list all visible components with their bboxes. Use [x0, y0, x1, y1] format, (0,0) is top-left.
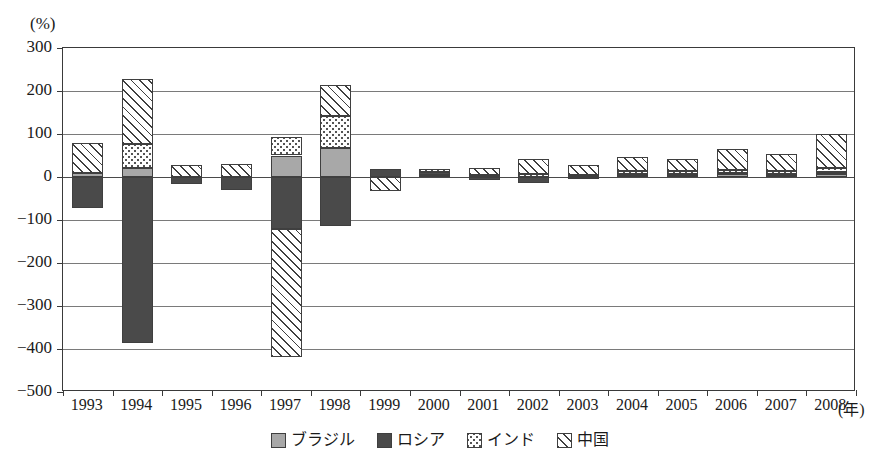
bar-segment-russia: [518, 177, 549, 183]
bar-segment-china: [370, 177, 401, 191]
x-axis-tick-label: 2007: [753, 396, 809, 414]
bar-segment-china: [320, 85, 351, 116]
legend-item[interactable]: ロシア: [377, 432, 445, 448]
x-axis-tick-label: 2003: [554, 396, 610, 414]
bar-segment-china: [122, 79, 153, 144]
chart-legend: ブラジルロシアインド中国: [0, 432, 880, 448]
y-axis-tick-label: 200: [0, 80, 52, 100]
x-axis-tick-label: 2000: [406, 396, 462, 414]
y-axis-tick-mark: [57, 306, 63, 307]
x-axis-tick-label: 1997: [257, 396, 313, 414]
y-axis-tick-label: 300: [0, 37, 52, 57]
bar-segment-china: [518, 159, 549, 175]
bar-segment-india: [271, 137, 302, 155]
bar-segment-brazil: [816, 174, 847, 177]
bar-segment-russia: [469, 177, 500, 180]
x-axis-tick-label: 1996: [207, 396, 263, 414]
legend-label: インド: [487, 432, 535, 448]
bar-segment-india: [419, 169, 450, 172]
gridline: [63, 263, 854, 264]
bar-segment-brazil: [419, 175, 450, 177]
bar-segment-china: [717, 149, 748, 170]
bar-segment-russia: [122, 177, 153, 343]
bar-segment-china: [271, 229, 302, 356]
bar-segment-russia: [72, 177, 103, 208]
y-axis-tick-mark: [57, 91, 63, 92]
gridline: [63, 220, 854, 221]
bar-segment-india: [469, 175, 500, 177]
bar-segment-india: [122, 144, 153, 168]
bar-segment-russia: [370, 169, 401, 177]
bar-segment-china: [568, 165, 599, 176]
x-axis-tick-label: 1995: [158, 396, 214, 414]
bar-segment-india: [766, 171, 797, 174]
x-axis-tick-label: 2001: [455, 396, 511, 414]
y-axis-tick-mark: [57, 220, 63, 221]
y-axis-tick-label: −400: [0, 338, 52, 358]
bar-segment-russia: [717, 173, 748, 175]
y-axis-tick-mark: [57, 263, 63, 264]
bar-segment-india: [568, 175, 599, 177]
bar-segment-china: [221, 164, 252, 177]
bar-segment-russia: [617, 174, 648, 176]
gridline: [63, 306, 854, 307]
bar-segment-india: [518, 174, 549, 177]
legend-swatch-icon: [557, 433, 572, 448]
y-axis-tick-label: −200: [0, 252, 52, 272]
y-axis-tick-label: 100: [0, 123, 52, 143]
x-axis-tick-label: 2002: [505, 396, 561, 414]
bar-segment-china: [171, 165, 202, 177]
y-axis-unit-label: (%): [30, 14, 55, 34]
legend-label: ロシア: [397, 432, 445, 448]
x-axis-tick-label: 1998: [307, 396, 363, 414]
bar-segment-russia: [221, 177, 252, 190]
x-axis-tick-label: 1994: [108, 396, 164, 414]
bar-segment-russia: [766, 174, 797, 176]
y-axis-tick-label: −300: [0, 295, 52, 315]
gridline: [63, 134, 854, 135]
bar-segment-brazil: [320, 148, 351, 177]
bar-segment-russia: [171, 177, 202, 184]
y-axis-tick-label: 0: [0, 166, 52, 186]
bar-segment-china: [816, 134, 847, 168]
legend-swatch-icon: [467, 433, 482, 448]
x-axis-tick-label: 2005: [654, 396, 710, 414]
bar-segment-china: [667, 159, 698, 171]
y-axis-tick-mark: [57, 48, 63, 49]
legend-swatch-icon: [377, 433, 392, 448]
y-axis-tick-mark: [57, 349, 63, 350]
legend-label: ブラジル: [291, 432, 355, 448]
bar-segment-india: [717, 170, 748, 173]
bar-segment-russia: [667, 174, 698, 176]
y-axis-tick-label: −500: [0, 381, 52, 401]
legend-item[interactable]: 中国: [557, 432, 609, 448]
bar-segment-india: [617, 171, 648, 173]
bar-segment-russia: [568, 177, 599, 179]
bar-segment-russia: [320, 177, 351, 226]
legend-item[interactable]: インド: [467, 432, 535, 448]
plot-area: [62, 47, 855, 391]
bar-segment-china: [617, 157, 648, 171]
x-axis-tick-label: 1999: [356, 396, 412, 414]
bar-segment-china: [72, 143, 103, 172]
chart-container: (%) 3002001000−100−200−300−400−500 19931…: [0, 0, 880, 466]
bar-segment-russia: [816, 172, 847, 174]
gridline: [63, 91, 854, 92]
bar-segment-russia: [419, 172, 450, 175]
x-axis-tick-label: 1993: [59, 396, 115, 414]
legend-label: 中国: [577, 432, 609, 448]
bar-segment-india: [667, 171, 698, 174]
bar-segment-china: [766, 154, 797, 172]
bar-segment-india: [320, 116, 351, 148]
y-axis-tick-mark: [57, 134, 63, 135]
bar-segment-brazil: [122, 168, 153, 177]
bar-segment-china: [469, 168, 500, 175]
legend-item[interactable]: ブラジル: [271, 432, 355, 448]
x-axis-unit-label: (年): [838, 396, 865, 420]
legend-swatch-icon: [271, 433, 286, 448]
bar-segment-india: [816, 168, 847, 172]
x-axis-tick-label: 2006: [703, 396, 759, 414]
y-axis-tick-mark: [57, 177, 63, 178]
bar-segment-russia: [271, 177, 302, 229]
x-axis-tick-label: 2004: [604, 396, 660, 414]
